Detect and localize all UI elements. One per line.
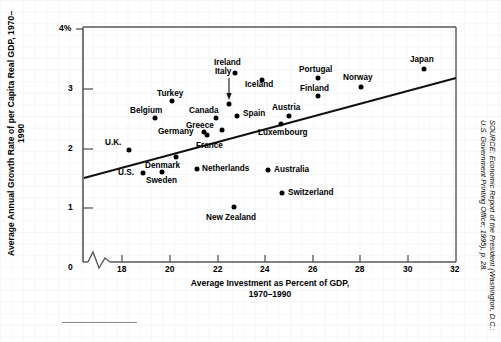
- point-australia: [266, 168, 271, 173]
- point-new-zealand: [232, 205, 237, 210]
- x-tick-label-18: 18: [117, 264, 126, 274]
- point-label-luxembourg: Luxembourg: [258, 129, 308, 137]
- point-label-ireland: Ireland: [214, 59, 241, 67]
- point-label-switzerland: Switzerland: [288, 189, 334, 197]
- y-axis-title: Average Annual Growth Rate of per Capita…: [6, 8, 26, 258]
- point-luxembourg: [279, 122, 284, 127]
- point-japan: [422, 67, 427, 72]
- point-label-italy: Italy: [215, 68, 231, 76]
- point-netherlands: [195, 167, 200, 172]
- point-label-denmark: Denmark: [145, 162, 180, 170]
- point-denmark: [174, 155, 179, 160]
- point-label-austria: Austria: [272, 104, 300, 112]
- point-label-norway: Norway: [343, 74, 373, 82]
- x-tick-label-28: 28: [355, 264, 364, 274]
- x-tick-label-22: 22: [213, 264, 222, 274]
- y-axis-title-text: Average Annual Growth Rate of per Capita…: [6, 10, 26, 255]
- x-axis-title-line1: Average Investment as Percent of GDP,: [120, 278, 420, 289]
- point-label-canada: Canada: [189, 107, 219, 115]
- y-tick-label-4: 4%: [59, 23, 71, 33]
- point-label-new-zealand: New Zealand: [206, 214, 256, 222]
- footnote-rule: [62, 322, 137, 323]
- y-tick-label-2: 2: [68, 143, 73, 153]
- point-label-japan: Japan: [410, 56, 434, 64]
- x-axis-title: Average Investment as Percent of GDP, 19…: [120, 278, 420, 300]
- x-axis-ticks: [122, 255, 408, 262]
- axis-frame: [83, 27, 456, 262]
- point-canada: [214, 116, 219, 121]
- point-label-sweden: Sweden: [146, 177, 177, 185]
- y-axis-ticks: [76, 29, 93, 208]
- point-portugal: [316, 76, 321, 81]
- point-finland: [316, 94, 321, 99]
- x-axis-title-line2: 1970–1990: [120, 289, 420, 300]
- point-switzerland: [280, 191, 285, 196]
- y-tick-label-0: 0: [68, 262, 73, 272]
- source-note: SOURCE: Economic Report of the President…: [481, 120, 497, 335]
- x-tick-label-24: 24: [260, 264, 269, 274]
- point-belgium: [153, 116, 158, 121]
- point-label-portugal: Portugal: [299, 66, 332, 74]
- point-turkey: [170, 99, 175, 104]
- point-uk: [127, 148, 132, 153]
- point-norway: [359, 85, 364, 90]
- italy-leader-arrow: [226, 93, 231, 100]
- point-label-finland: Finland: [300, 85, 329, 93]
- point-label-netherlands: Netherlands: [202, 165, 249, 173]
- chart-figure: 4% 3 2 1 0 18 20 22 24 26 28 30 32 U.K. …: [0, 0, 501, 342]
- point-label-spain: Spain: [243, 110, 265, 118]
- point-label-greece: Greece: [186, 122, 214, 130]
- point-label-uk: U.K.: [105, 139, 121, 147]
- point-label-us: U.S.: [118, 169, 134, 177]
- y-tick-label-3: 3: [68, 83, 73, 93]
- point-us: [141, 171, 146, 176]
- point-italy: [227, 102, 232, 107]
- point-sweden: [160, 170, 165, 175]
- point-label-belgium: Belgium: [130, 107, 162, 115]
- x-tick-label-32: 32: [450, 264, 459, 274]
- point-label-turkey: Turkey: [157, 90, 183, 98]
- x-axis-line: [83, 252, 456, 268]
- point-label-iceland: Iceland: [245, 81, 273, 89]
- source-text: SOURCE: Economic Report of the President…: [479, 120, 497, 331]
- x-tick-label-30: 30: [403, 264, 412, 274]
- data-points: [127, 67, 427, 210]
- point-austria: [287, 114, 292, 119]
- point-label-france: France: [196, 142, 223, 150]
- x-tick-label-26: 26: [308, 264, 317, 274]
- point-france: [205, 133, 210, 138]
- point-label-australia: Australia: [274, 166, 309, 174]
- point-greece: [220, 128, 225, 133]
- y-tick-label-1: 1: [68, 202, 73, 212]
- point-spain: [235, 114, 240, 119]
- x-tick-label-20: 20: [165, 264, 174, 274]
- point-ireland: [233, 71, 238, 76]
